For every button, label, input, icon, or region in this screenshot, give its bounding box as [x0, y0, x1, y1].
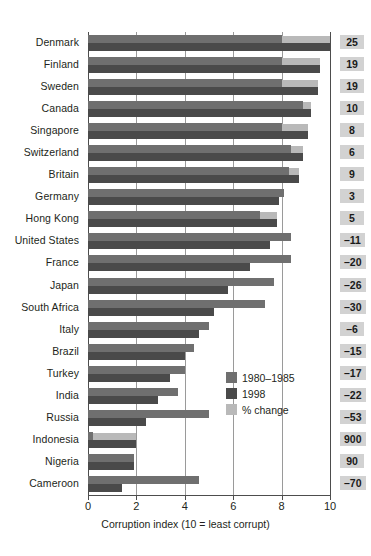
legend-swatch: [226, 404, 237, 415]
bar-1980-1985: [88, 300, 265, 308]
percent-change-badge: –22: [340, 388, 366, 402]
bar-1998: [88, 175, 299, 183]
category-label: Hong Kong: [26, 212, 79, 224]
axis-tick-label: 0: [85, 500, 91, 512]
bar-group: [88, 98, 330, 120]
bar-group: [88, 164, 330, 186]
bar-1998: [88, 153, 303, 161]
percent-change-badge: 19: [340, 79, 364, 93]
bar-1980-1985: [88, 211, 260, 219]
corruption-index-bar-chart: DenmarkFinlandSwedenCanadaSingaporeSwitz…: [0, 0, 371, 556]
category-label: Brazil: [52, 345, 79, 357]
bar-1980-1985: [88, 145, 291, 153]
percent-change-badge: 900: [340, 432, 366, 446]
category-label: Denmark: [36, 36, 79, 48]
bar-1998: [88, 241, 270, 249]
bar-1980-1985: [88, 255, 291, 263]
bar-group: [88, 429, 330, 451]
legend-item: 1998: [226, 387, 295, 400]
category-label: France: [46, 256, 79, 268]
bar-group: [88, 252, 330, 274]
bar-1998: [88, 352, 185, 360]
percent-change-column: 2519191086935–11–20–26–30–6–15–17–22–539…: [334, 32, 371, 495]
bar-1998: [88, 396, 158, 404]
value-axis-title: Corruption index (10 = least corrupt): [0, 518, 371, 530]
axis-tick-label: 6: [230, 500, 236, 512]
legend-label: 1998: [242, 388, 265, 400]
bar-group: [88, 451, 330, 473]
bar-1998: [88, 87, 318, 95]
category-label: Germany: [35, 190, 79, 202]
value-axis-line: [88, 495, 331, 496]
percent-change-badge: 5: [340, 211, 364, 225]
bar-1998: [88, 219, 277, 227]
legend-label: 1980–1985: [242, 372, 295, 384]
category-label: Russia: [46, 411, 79, 423]
bar-1998: [88, 440, 136, 448]
bar-group: [88, 230, 330, 252]
percent-change-badge: 25: [340, 35, 364, 49]
bar-1980-1985: [88, 79, 282, 87]
bar-1980-1985: [88, 410, 209, 418]
bar-1998: [88, 374, 170, 382]
bar-group: [88, 54, 330, 76]
bar-1980-1985: [88, 35, 282, 43]
category-label: Indonesia: [33, 433, 79, 445]
category-label: Turkey: [47, 367, 79, 379]
bar-group: [88, 142, 330, 164]
bar-1998: [88, 197, 279, 205]
bar-group: [88, 120, 330, 142]
category-label: Switzerland: [24, 146, 79, 158]
category-label: United States: [15, 234, 79, 246]
percent-change-badge: 9: [340, 167, 364, 181]
percent-change-badge: 90: [340, 454, 364, 468]
bar-1980-1985: [88, 344, 194, 352]
bar-1998: [88, 43, 330, 51]
gridline-10: [330, 32, 331, 495]
category-label: Nigeria: [45, 455, 79, 467]
legend: 1980–19851998% change: [226, 371, 295, 419]
legend-item: 1980–1985: [226, 371, 295, 384]
legend-swatch: [226, 388, 237, 399]
bar-1980-1985: [88, 167, 289, 175]
bar-1980-1985: [88, 57, 282, 65]
percent-change-badge: 3: [340, 189, 364, 203]
category-label: Cameroon: [29, 477, 79, 489]
bar-1980-1985: [88, 388, 178, 396]
bar-1980-1985: [88, 454, 134, 462]
category-label: Japan: [50, 279, 79, 291]
category-label: South Africa: [21, 301, 79, 313]
percent-change-badge: –15: [340, 344, 366, 358]
category-label: Canada: [42, 102, 79, 114]
category-label: India: [56, 389, 79, 401]
category-label: Finland: [44, 58, 79, 70]
bar-1998: [88, 308, 214, 316]
percent-change-badge: 6: [340, 145, 364, 159]
percent-change-badge: –26: [340, 278, 366, 292]
axis-tick-label: 8: [279, 500, 285, 512]
category-label: Singapore: [30, 124, 79, 136]
bar-group: [88, 76, 330, 98]
bar-1980-1985: [88, 476, 199, 484]
bar-1980-1985: [88, 101, 303, 109]
bar-1980-1985: [88, 189, 284, 197]
axis-tick-label: 10: [324, 500, 336, 512]
plot-area: [88, 32, 330, 495]
bar-1998: [88, 462, 134, 470]
bar-group: [88, 319, 330, 341]
bar-group: [88, 275, 330, 297]
legend-item: % change: [226, 403, 295, 416]
bar-group: [88, 473, 330, 495]
category-label: Britain: [49, 168, 79, 180]
bar-1998: [88, 109, 311, 117]
percent-change-badge: –6: [340, 322, 364, 336]
percent-change-badge: –11: [340, 233, 365, 247]
percent-change-badge: –20: [340, 255, 366, 269]
axis-tick-label: 4: [182, 500, 188, 512]
bar-1998: [88, 263, 250, 271]
percent-change-badge: 8: [340, 123, 364, 137]
percent-change-badge: 10: [340, 101, 364, 115]
bar-1980-1985: [88, 278, 274, 286]
bar-group: [88, 208, 330, 230]
bar-1998: [88, 418, 146, 426]
